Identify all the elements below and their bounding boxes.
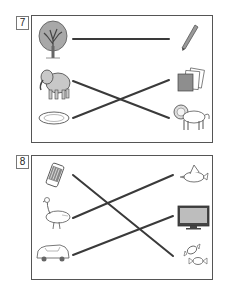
exercise-7-connections [73,39,169,118]
candy-icon [184,244,207,265]
bird-icon [180,165,208,182]
eraser-icon [46,163,65,188]
connection-goose-bird [73,175,173,218]
elephant-icon [40,70,70,99]
matching-illustrations [0,0,227,291]
lion-icon [174,105,209,130]
pencil-icon [182,25,198,51]
tv-icon [178,206,209,230]
plate-icon [39,112,69,124]
tree-icon [39,21,67,58]
goose-icon [43,198,70,230]
connection-car-tv [73,216,173,255]
connection-eraser-candy [73,175,173,256]
exercise-8-connections [73,175,173,256]
papers-icon [178,68,204,91]
car-icon [37,245,69,262]
